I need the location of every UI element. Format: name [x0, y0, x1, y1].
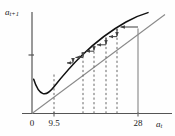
x-tick-label-0: 0: [25, 119, 39, 128]
identity-line-45deg: [32, 15, 165, 114]
cobweb-diagram-figure: at+1 at 0 9.5 28: [0, 0, 175, 136]
y-axis-label-subscript: t+1: [10, 10, 19, 17]
plot-area: [0, 0, 175, 136]
x-tick-label-9-5: 9.5: [43, 119, 65, 128]
x-axis-label-subscript: t: [161, 122, 163, 129]
y-axis-label: at+1: [5, 8, 19, 18]
x-tick-label-28: 28: [128, 119, 148, 128]
x-axis-label: at: [156, 120, 162, 130]
cobweb-path: [67, 27, 138, 63]
axis-lines: [22, 12, 172, 117]
map-curve: [34, 13, 148, 94]
dropline-group: [54, 29, 117, 114]
